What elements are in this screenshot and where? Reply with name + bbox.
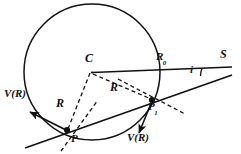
label-velocity-left: V(R) (4, 88, 26, 99)
label-radius-outer-r0: R0 (156, 51, 167, 65)
label-point-p1-subscript: 1 (154, 109, 157, 116)
label-radius-left-r: R (56, 97, 64, 109)
label-center-c: C (85, 52, 93, 64)
label-radius-outer-subscript: 0 (163, 59, 166, 66)
label-point-p1: P1 (148, 101, 158, 115)
angle-arc (201, 68, 203, 76)
label-radius-right-r: R (110, 81, 118, 93)
label-angle-i: i (190, 64, 193, 75)
point-marker-p (64, 127, 70, 133)
point-marker-c (91, 71, 93, 73)
dashed-radius-to-p (68, 73, 90, 129)
dashed-radius-to-p1 (93, 74, 151, 99)
axis-line-c-to-s (92, 67, 232, 73)
velocity-arrow-at-p (30, 112, 66, 130)
label-source-s: S (220, 48, 227, 60)
label-velocity-right: V(R) (127, 132, 149, 143)
label-point-p: P (71, 133, 78, 144)
dashed-normal-at-p (61, 100, 98, 151)
geometry-figure (0, 0, 241, 154)
